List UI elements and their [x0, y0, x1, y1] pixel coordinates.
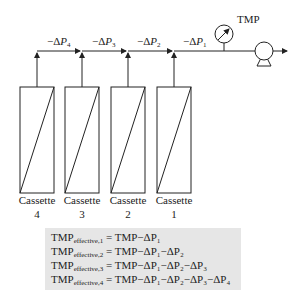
equations-box: TMPeffective,1 = TMP−ΔP₁ TMPeffective,2 … — [45, 228, 241, 290]
cassette-label-3: Cassette3 — [60, 193, 104, 221]
cassette-risers — [37, 53, 174, 87]
pressure-drop-2: −ΔP2 — [137, 36, 161, 49]
tmp-label: TMP — [237, 14, 260, 25]
pump-icon — [255, 42, 273, 66]
equation-3: TMPeffective,3 = TMP−ΔP₁−ΔP₂−ΔP₃ — [51, 260, 207, 273]
pressure-drop-4: −ΔP4 — [47, 36, 71, 49]
cassette-boxes — [20, 87, 191, 193]
cassette-label-4: Cassette4 — [15, 193, 59, 221]
cassette-label-1: Cassette1 — [152, 193, 196, 221]
pressure-gauge-icon — [215, 25, 233, 51]
pressure-drop-3: −ΔP3 — [92, 36, 116, 49]
cassette-label-2: Cassette2 — [106, 193, 150, 221]
equation-1: TMPeffective,1 = TMP−ΔP₁ — [51, 232, 161, 245]
pressure-drop-1: −ΔP1 — [183, 36, 207, 49]
equation-4: TMPeffective,4 = TMP−ΔP₁−ΔP₂−ΔP₃−ΔP₄ — [51, 274, 230, 287]
equation-2: TMPeffective,2 = TMP−ΔP₁−ΔP₂ — [51, 246, 184, 259]
